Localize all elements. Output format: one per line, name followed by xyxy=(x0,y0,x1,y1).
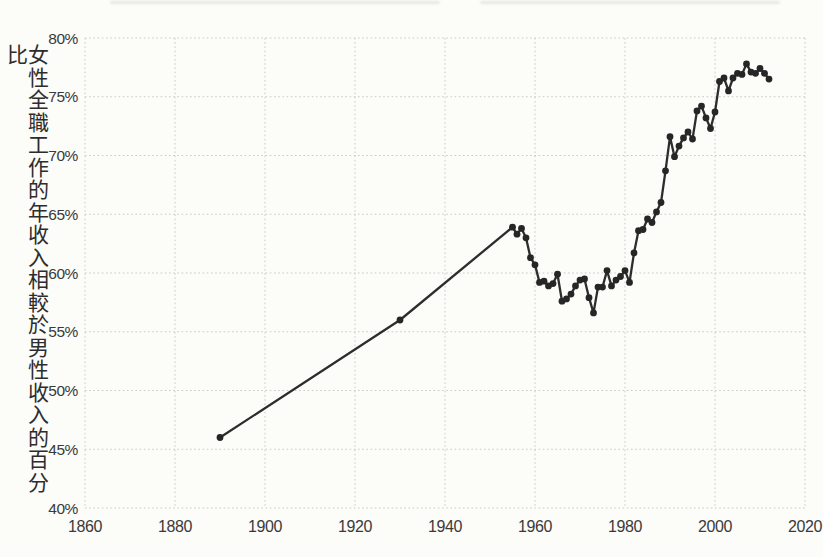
data-point xyxy=(689,136,696,143)
data-point xyxy=(523,234,530,241)
data-point xyxy=(604,267,611,274)
data-point xyxy=(590,310,597,317)
data-point xyxy=(518,225,525,232)
data-point xyxy=(662,167,669,174)
data-point xyxy=(698,103,705,110)
data-point xyxy=(680,135,687,142)
data-point xyxy=(608,283,615,290)
x-tick-label: 2020 xyxy=(788,518,822,535)
data-point xyxy=(766,76,773,83)
data-point xyxy=(617,273,624,280)
data-point xyxy=(599,284,606,291)
data-point xyxy=(761,70,768,77)
data-point xyxy=(676,143,683,150)
data-point xyxy=(622,267,629,274)
line-chart: 40%45%50%55%60%65%70%75%80%1860188019001… xyxy=(0,0,823,557)
data-point xyxy=(514,231,521,238)
y-tick-label: 40% xyxy=(48,500,78,517)
y-tick-label: 50% xyxy=(48,382,78,399)
x-tick-label: 1980 xyxy=(608,518,642,535)
x-tick-label: 1900 xyxy=(248,518,282,535)
data-point xyxy=(550,280,557,287)
x-tick-label: 1940 xyxy=(428,518,462,535)
series-line xyxy=(220,64,769,438)
data-point xyxy=(554,271,561,278)
data-point xyxy=(568,291,575,298)
data-point xyxy=(671,153,678,160)
y-tick-label: 70% xyxy=(48,147,78,164)
data-point xyxy=(725,88,732,95)
x-tick-label: 1880 xyxy=(158,518,192,535)
y-tick-label: 80% xyxy=(48,30,78,47)
data-point xyxy=(626,279,633,286)
x-tick-label: 1920 xyxy=(338,518,372,535)
data-point xyxy=(743,61,750,68)
y-tick-label: 55% xyxy=(48,323,78,340)
data-point xyxy=(397,317,404,324)
data-point xyxy=(631,250,638,257)
data-point xyxy=(509,224,516,231)
data-point xyxy=(721,75,728,82)
chart-page: 女性全職工作的年收入相較於男性收入的百分比 40%45%50%55%60%65%… xyxy=(0,0,823,557)
data-point xyxy=(712,109,719,116)
data-point xyxy=(527,254,534,261)
data-point xyxy=(739,71,746,78)
data-point xyxy=(703,115,710,122)
y-tick-label: 65% xyxy=(48,206,78,223)
data-point xyxy=(532,261,539,268)
y-tick-label: 45% xyxy=(48,441,78,458)
data-point xyxy=(217,434,224,441)
x-tick-label: 1860 xyxy=(68,518,102,535)
x-tick-label: 1960 xyxy=(518,518,552,535)
data-point xyxy=(581,276,588,283)
data-point xyxy=(667,133,674,140)
data-point xyxy=(572,283,579,290)
data-point xyxy=(707,125,714,132)
data-point xyxy=(658,199,665,206)
data-point xyxy=(653,209,660,216)
data-point xyxy=(649,219,656,226)
x-tick-label: 2000 xyxy=(698,518,732,535)
y-tick-label: 60% xyxy=(48,265,78,282)
data-point xyxy=(640,226,647,233)
data-point xyxy=(685,129,692,136)
data-point xyxy=(586,294,593,301)
y-tick-label: 75% xyxy=(48,88,78,105)
